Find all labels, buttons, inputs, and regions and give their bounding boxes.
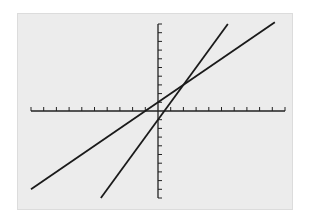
plotted-lines <box>31 22 275 198</box>
line-1 <box>31 22 275 189</box>
graph <box>0 0 309 217</box>
axes <box>31 24 285 198</box>
